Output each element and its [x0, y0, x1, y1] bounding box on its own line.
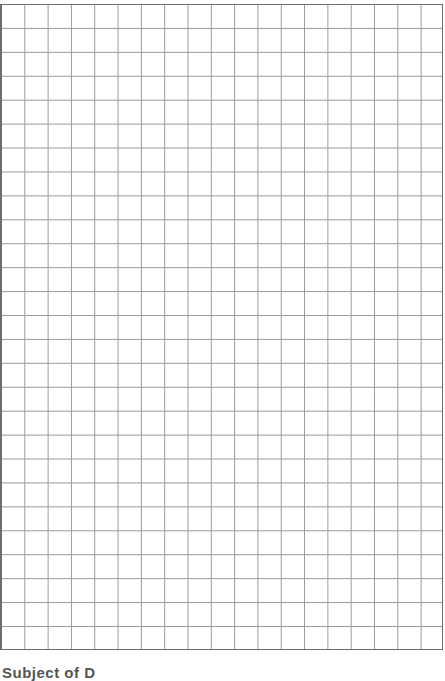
graph-paper-grid — [0, 4, 443, 650]
footer-caption: Subject of D — [2, 664, 96, 681]
